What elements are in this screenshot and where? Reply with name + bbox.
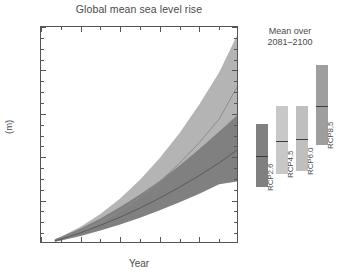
x-tick-minor-top	[180, 27, 181, 30]
y-tick-major	[41, 157, 46, 158]
y-tick-major	[41, 201, 46, 202]
y-tick-minor	[41, 136, 44, 137]
y-tick-minor	[41, 168, 44, 169]
y-tick-minor-right	[234, 146, 237, 147]
x-tick-minor-top	[140, 27, 141, 30]
side-caption-line-1: Mean over	[244, 26, 336, 37]
x-tick-major-top	[41, 27, 42, 32]
y-tick-minor-right	[234, 136, 237, 137]
y-tick-minor	[41, 103, 44, 104]
x-tick-major-top	[199, 27, 200, 32]
y-tick-minor	[41, 146, 44, 147]
y-tick-minor	[41, 38, 44, 39]
range-bar-median-rcp8-5	[316, 106, 328, 107]
y-tick-minor	[41, 179, 44, 180]
x-tick-major	[81, 237, 82, 242]
y-tick-minor-right	[234, 60, 237, 61]
y-tick-minor	[41, 49, 44, 50]
y-tick-minor-right	[234, 49, 237, 50]
x-tick-minor	[180, 239, 181, 242]
y-tick-minor-right	[234, 125, 237, 126]
x-tick-major-top	[120, 27, 121, 32]
x-tick-major	[41, 237, 42, 242]
y-tick-minor-right	[234, 222, 237, 223]
range-bar-median-rcp6-0	[296, 139, 308, 140]
y-tick-major	[41, 70, 46, 71]
y-axis-label: (m)	[3, 120, 14, 134]
page-title: Global mean sea level rise	[40, 3, 238, 15]
y-tick-minor-right	[234, 179, 237, 180]
y-tick-minor-right	[234, 92, 237, 93]
y-tick-minor	[41, 125, 44, 126]
y-tick-minor-right	[234, 233, 237, 234]
range-bar-label-rcp8-5: RCP8.5	[326, 122, 335, 149]
range-bar-label-rcp4-5: RCP4.5	[286, 150, 295, 177]
x-tick-minor	[100, 239, 101, 242]
range-bar-median-rcp2-6	[256, 156, 268, 157]
y-tick-minor	[41, 60, 44, 61]
x-tick-minor	[140, 239, 141, 242]
x-tick-minor	[61, 239, 62, 242]
y-tick-minor	[41, 81, 44, 82]
x-tick-minor-top	[219, 27, 220, 30]
y-tick-minor-right	[234, 38, 237, 39]
y-tick-major-right	[232, 27, 237, 28]
y-tick-minor	[41, 190, 44, 191]
y-tick-minor	[41, 211, 44, 212]
side-panel-caption: Mean over 2081–2100	[244, 26, 336, 48]
x-tick-major	[160, 237, 161, 242]
x-tick-major-top	[81, 27, 82, 32]
x-tick-major	[120, 237, 121, 242]
range-bar-label-rcp6-0: RCP6.0	[306, 148, 315, 175]
side-caption-line-2: 2081–2100	[244, 37, 336, 48]
x-tick-major-top	[160, 27, 161, 32]
y-tick-minor-right	[234, 103, 237, 104]
x-tick-minor-top	[100, 27, 101, 30]
y-tick-minor	[41, 92, 44, 93]
y-tick-minor-right	[234, 190, 237, 191]
sea-level-rise-figure: Global mean sea level rise 0.00.20.40.60…	[0, 0, 338, 278]
x-tick-major	[199, 237, 200, 242]
side-panel: Mean over 2081–2100 RCP2.6RCP4.5RCP6.0RC…	[244, 0, 338, 278]
x-tick-minor-top	[61, 27, 62, 30]
y-tick-minor	[41, 233, 44, 234]
range-bar-median-rcp4-5	[276, 141, 288, 142]
y-tick-major-right	[232, 70, 237, 71]
y-tick-minor-right	[234, 168, 237, 169]
y-tick-major-right	[232, 114, 237, 115]
x-axis-label: Year	[40, 258, 238, 269]
y-tick-minor	[41, 222, 44, 223]
y-tick-minor-right	[234, 211, 237, 212]
plot-area: 0.00.20.40.60.81.02000202020402060208021…	[40, 26, 238, 243]
x-tick-minor	[219, 239, 220, 242]
range-bar-label-rcp2-6: RCP2.6	[266, 163, 275, 190]
plot-bands	[41, 27, 238, 243]
y-tick-major-right	[232, 157, 237, 158]
y-tick-major	[41, 114, 46, 115]
y-tick-minor-right	[234, 81, 237, 82]
y-tick-major-right	[232, 201, 237, 202]
